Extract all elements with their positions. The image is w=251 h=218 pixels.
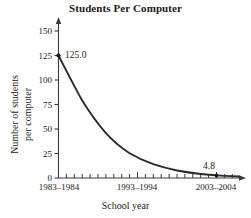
y-axis-title: Number of students per computer (9, 45, 34, 185)
y-tick-label-150: 150 (18, 26, 52, 36)
data-curve (59, 56, 240, 177)
data-marker-125 (56, 53, 60, 57)
data-marker-4-8 (215, 174, 219, 178)
chart-container: Students Per Computer (0, 0, 251, 218)
annotation-label-4-8: 4.8 (203, 161, 215, 171)
y-axis-ticks (55, 31, 59, 178)
y-axis-title-line1: Number of students (9, 45, 22, 185)
annotation-label-125: 125.0 (65, 50, 86, 60)
y-axis-arrowhead (56, 17, 61, 24)
x-axis-title: School year (0, 200, 251, 212)
x-axis-arrowhead (239, 175, 246, 181)
x-tick-label-2003-2004: 2003–2004 (178, 182, 251, 192)
x-tick-label-1993-1994: 1993–1994 (99, 182, 175, 192)
y-axis-title-line2: per computer (21, 45, 34, 185)
